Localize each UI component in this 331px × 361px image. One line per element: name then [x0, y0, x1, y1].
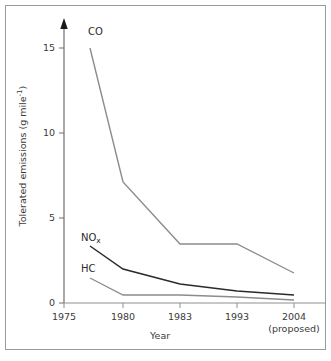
y-axis-label-close: ) — [17, 86, 28, 90]
series-label-nox: NOx — [81, 232, 101, 243]
y-axis-label: Tolerated emissions (g mile-1) — [16, 76, 28, 236]
y-axis-arrow-icon — [60, 18, 67, 29]
x-tick-sublabel-proposed: (proposed) — [266, 323, 322, 334]
series-line-hc — [90, 278, 294, 300]
y-axis-label-main: Tolerated emissions (g mile — [17, 96, 28, 226]
y-tick-label-15: 15 — [33, 42, 55, 53]
y-tick-label-10: 10 — [33, 127, 55, 138]
series-label-co: CO — [88, 26, 103, 37]
x-tick-label-2004: 2004 — [272, 311, 316, 322]
series-label-nox-subscript: x — [96, 236, 100, 245]
x-axis-label: Year — [150, 330, 170, 341]
series-line-co — [90, 48, 294, 273]
chart-figure: Tolerated emissions (g mile-1) Year 0 5 … — [0, 0, 331, 361]
y-tick-label-5: 5 — [33, 212, 55, 223]
data-series — [90, 48, 294, 300]
y-tick-marks — [59, 48, 64, 303]
y-tick-label-0: 0 — [33, 297, 55, 308]
series-label-nox-text: NO — [81, 232, 96, 243]
series-label-hc: HC — [81, 263, 96, 274]
y-axis-label-exponent: -1 — [16, 89, 24, 96]
x-tick-label-1983: 1983 — [158, 311, 202, 322]
series-line-nox — [90, 246, 294, 295]
axes — [59, 18, 326, 308]
x-tick-marks — [64, 303, 294, 308]
x-tick-label-1993: 1993 — [215, 311, 259, 322]
x-tick-label-1980: 1980 — [101, 311, 145, 322]
x-tick-label-1975: 1975 — [42, 311, 86, 322]
